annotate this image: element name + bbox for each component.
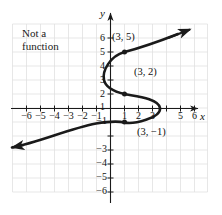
point-label-3-neg1: (3, −1) xyxy=(137,126,166,137)
point-label-3-5: (3, 5) xyxy=(112,31,135,42)
x-tick-3: 3 xyxy=(147,110,158,121)
x-axis-label: x xyxy=(200,110,205,122)
point-3-2 xyxy=(122,92,127,97)
x-tick-2: 2 xyxy=(133,110,144,121)
curve-arrow-left xyxy=(13,145,25,147)
x-tick-5: 5 xyxy=(175,110,186,121)
y-tick--5: −5 xyxy=(90,171,107,182)
x-tick-6: 6 xyxy=(189,110,200,121)
graph-figure: Not a function y x (3, 5) (3, 2) (3, −1)… xyxy=(0,0,222,215)
curve-arrow-right xyxy=(168,30,190,39)
y-tick--4: −4 xyxy=(90,157,107,168)
y-tick-2: 2 xyxy=(93,88,105,99)
y-tick-1: 1 xyxy=(93,101,105,112)
not-a-function-note: Not a function xyxy=(22,27,92,53)
y-tick--3: −3 xyxy=(90,143,107,154)
point-label-3-2: (3, 2) xyxy=(134,66,157,77)
y-tick-6: 6 xyxy=(93,32,105,43)
note-line-2: function xyxy=(22,40,92,53)
point-3-5 xyxy=(122,50,127,55)
y-tick-3: 3 xyxy=(93,74,105,85)
y-tick--1: −1 xyxy=(90,115,107,126)
x-tick-1: 1 xyxy=(119,110,130,121)
y-tick-4: 4 xyxy=(93,60,105,71)
note-line-1: Not a xyxy=(22,27,92,40)
y-axis-label: y xyxy=(100,7,105,19)
y-tick-5: 5 xyxy=(93,46,105,57)
y-tick--6: −6 xyxy=(90,185,107,196)
